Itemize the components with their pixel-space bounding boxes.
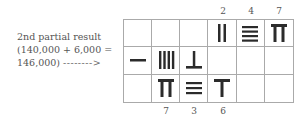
- annotation-line-2: (140,000 + 6,000 =: [17, 43, 112, 56]
- bottom-label-col3: 3: [180, 106, 208, 116]
- annotation-line-3: 146,000) -------->: [17, 56, 112, 69]
- cell-r2-c5: [265, 75, 293, 102]
- partial-result-annotation: 2nd partial result (140,000 + 6,000 = 14…: [17, 30, 112, 69]
- rod-numeral-4-vertical-icon: [157, 50, 175, 70]
- cell-r1-c5: [265, 47, 293, 74]
- cell-r2-c3: [208, 75, 236, 102]
- counting-board-grid: [123, 19, 294, 103]
- cell-r0-c1: [152, 20, 180, 47]
- rod-numeral-7-vertical-icon: [270, 23, 288, 43]
- rod-numeral-6-vertical-icon: [213, 78, 231, 98]
- cell-r2-c1: [152, 75, 180, 102]
- cell-r0-c2: [180, 20, 208, 47]
- cell-r2-c0: [124, 75, 152, 102]
- bottom-label-col2: 7: [152, 106, 180, 116]
- cell-r1-c0: [124, 47, 152, 74]
- cell-r2-c2: [180, 75, 208, 102]
- bottom-label-col4: 6: [209, 106, 237, 116]
- cell-r1-c4: [237, 47, 265, 74]
- cell-r1-c1: [152, 47, 180, 74]
- cell-r1-c2: [180, 47, 208, 74]
- annotation-line-1: 2nd partial result: [17, 30, 112, 43]
- top-label-col4: 2: [209, 6, 237, 16]
- top-label-col6: 7: [265, 6, 293, 16]
- cell-r2-c4: [237, 75, 265, 102]
- cell-r0-c5: [265, 20, 293, 47]
- rod-numeral-3-horizontal-icon: [185, 80, 203, 96]
- dashed-arrow-icon: -------->: [63, 57, 101, 68]
- rod-numeral-6-horizontal-icon: [185, 50, 203, 70]
- top-label-col5: 4: [237, 6, 265, 16]
- cell-r0-c4: [237, 20, 265, 47]
- rod-numeral-7-vertical-icon: [157, 78, 175, 98]
- cell-r0-c3: [208, 20, 236, 47]
- rod-numeral-4-horizontal-icon: [241, 24, 259, 42]
- cell-r1-c3: [208, 47, 236, 74]
- rod-numeral-2-vertical-icon: [215, 23, 229, 43]
- rod-numeral-1-horizontal-icon: [129, 57, 147, 63]
- cell-r0-c0: [124, 20, 152, 47]
